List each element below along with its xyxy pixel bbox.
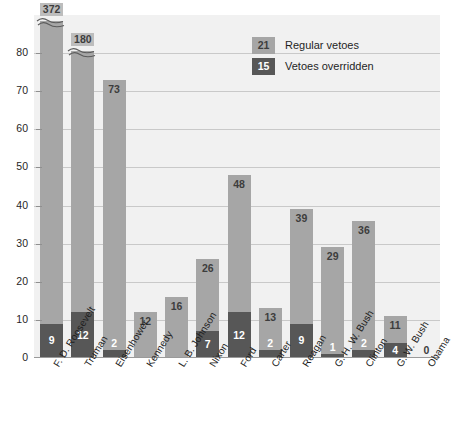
veto-bar-chart: 937212180273121672612482139391292364110 … xyxy=(0,0,454,441)
legend-item-regular-vetoes: 21 Regular vetoes xyxy=(252,37,422,56)
y-tick-label-50: 50 xyxy=(0,160,28,172)
y-tick-mark-60 xyxy=(36,129,42,130)
y-tick-mark-70 xyxy=(36,91,42,92)
legend-item-vetoes-overridden: 15 Vetoes overridden xyxy=(252,58,422,77)
y-tick-mark-50 xyxy=(36,167,42,168)
legend-swatch-regular-vetoes: 21 xyxy=(252,37,275,54)
y-tick-label-60: 60 xyxy=(0,122,28,134)
y-tick-mark-20 xyxy=(36,282,42,283)
y-tick-label-10: 10 xyxy=(0,313,28,325)
y-tick-label-70: 70 xyxy=(0,84,28,96)
y-tick-mark-40 xyxy=(36,206,42,207)
y-tick-label-0: 0 xyxy=(0,351,28,363)
y-tick-mark-30 xyxy=(36,244,42,245)
y-tick-mark-80 xyxy=(36,53,42,54)
y-tick-label-80: 80 xyxy=(0,46,28,58)
legend-label-vetoes-overridden: Vetoes overridden xyxy=(285,58,374,75)
y-tick-mark-10 xyxy=(36,320,42,321)
chart-legend: 21 Regular vetoes 15 Vetoes overridden xyxy=(252,37,422,79)
legend-label-regular-vetoes: Regular vetoes xyxy=(285,37,359,54)
y-tick-label-30: 30 xyxy=(0,237,28,249)
y-tick-label-40: 40 xyxy=(0,199,28,211)
y-tick-label-20: 20 xyxy=(0,275,28,287)
legend-swatch-vetoes-overridden: 15 xyxy=(252,58,275,75)
